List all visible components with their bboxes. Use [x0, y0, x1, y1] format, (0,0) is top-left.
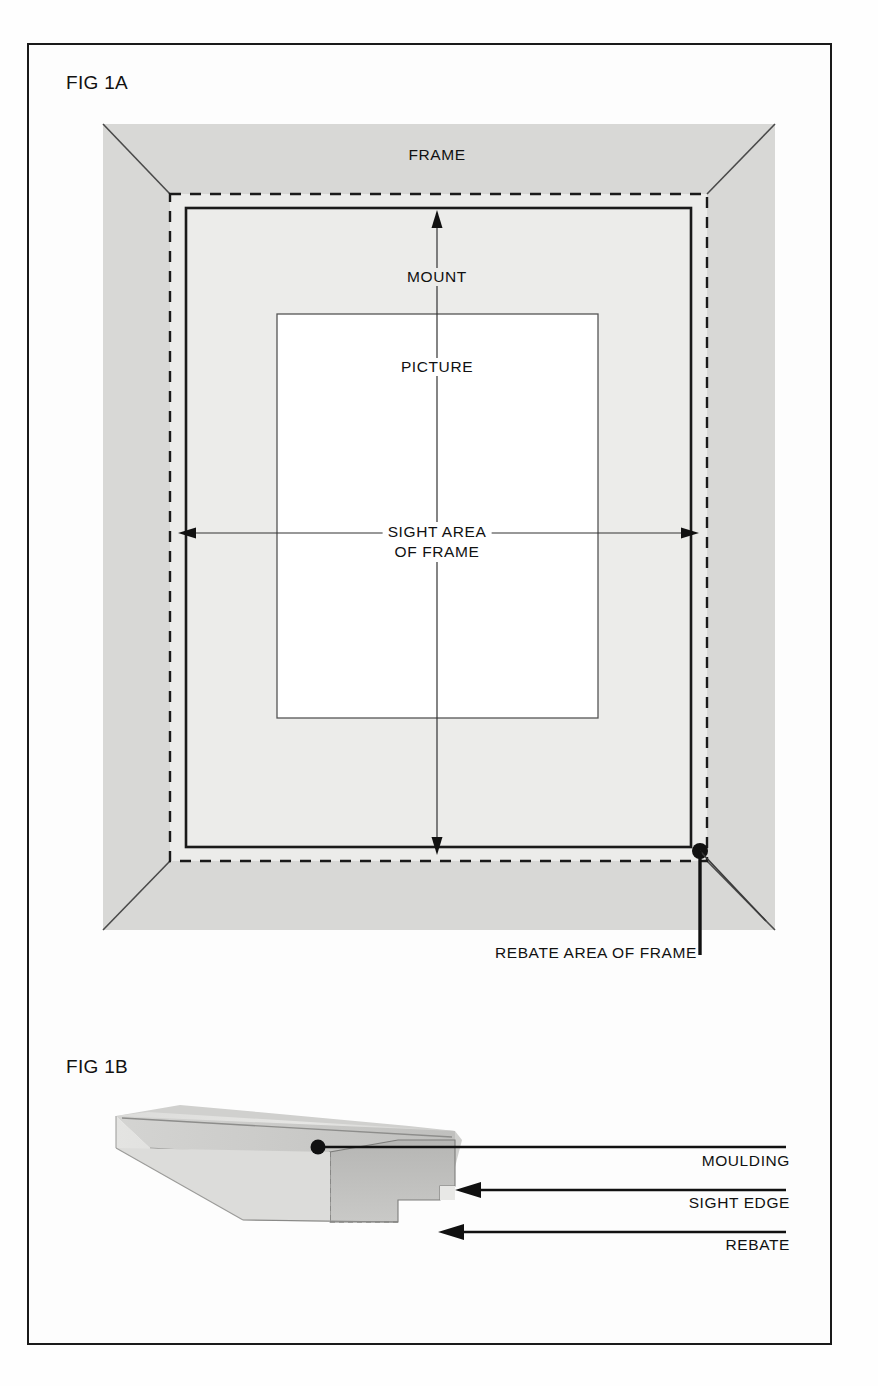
- figure-page: FIG 1A FIG 1B: [0, 0, 878, 1386]
- label-sight-area-line2: OF FRAME: [395, 543, 480, 560]
- fig-1a-caption: FIG 1A: [66, 72, 128, 94]
- plate-border: [27, 43, 832, 1345]
- label-picture: PICTURE: [396, 358, 478, 376]
- label-sight-area-line1: SIGHT AREA: [388, 523, 487, 540]
- label-rebate: REBATE: [0, 1236, 790, 1254]
- label-moulding: MOULDING: [0, 1152, 790, 1170]
- label-sight-edge: SIGHT EDGE: [0, 1194, 790, 1212]
- label-sight-area: SIGHT AREA OF FRAME: [383, 522, 492, 562]
- label-rebate-area-of-frame: REBATE AREA OF FRAME: [0, 944, 697, 962]
- label-frame: FRAME: [403, 146, 470, 164]
- label-mount: MOUNT: [402, 268, 472, 286]
- fig-1b-caption: FIG 1B: [66, 1056, 128, 1078]
